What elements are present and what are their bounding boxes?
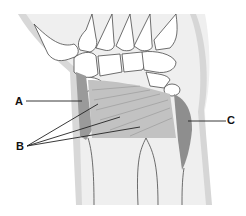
label-b: B bbox=[16, 141, 24, 152]
wrist-anatomy-diagram bbox=[0, 0, 246, 216]
label-c: C bbox=[227, 115, 235, 126]
label-a: A bbox=[15, 96, 23, 107]
